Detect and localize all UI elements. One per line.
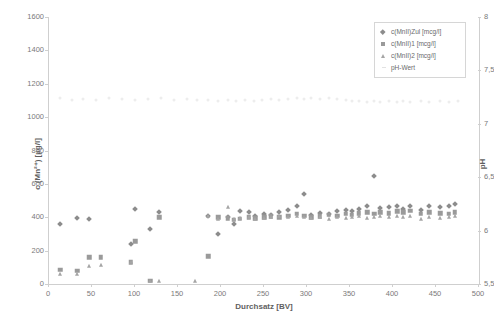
x-axis-tick-label: 50 [87, 290, 95, 298]
y-axis-tick-label: 1600 [8, 13, 44, 21]
y-axis-tick-label: 0 [8, 280, 44, 288]
x-axis-tick-mark [91, 284, 92, 287]
data-point-marker [252, 100, 255, 103]
y-axis-tick-label: 600 [8, 180, 44, 188]
x-axis-tick-label: 150 [171, 290, 184, 298]
legend-item: c(MnII)1 [mcg/l] [379, 38, 462, 50]
x-axis-tick-mark [263, 284, 264, 287]
x-axis-tick-mark [478, 284, 479, 287]
data-point-marker [172, 99, 175, 102]
legend-item-label: c(MnII)1 [mcg/l] [391, 41, 436, 48]
data-point-marker [159, 97, 162, 100]
legend-item-label: c(MnII)Zul [mcg/l] [391, 29, 441, 36]
legend-marker-diamond-icon [379, 28, 388, 37]
data-point-marker [261, 99, 264, 102]
x-axis-tick-mark [435, 284, 436, 287]
data-point-marker [108, 97, 111, 100]
x-axis-tick-mark [134, 284, 135, 287]
y-axis-tick-mark [45, 117, 48, 118]
x-axis-tick-mark [349, 284, 350, 287]
y2-axis-tick-label: 8 [484, 13, 488, 21]
y2-axis-title: pH [478, 158, 487, 169]
data-point-marker [59, 97, 62, 100]
data-point-marker [185, 98, 188, 101]
x-axis-tick-label: 0 [46, 290, 50, 298]
data-point-marker [295, 97, 298, 100]
y-axis-tick-label: 1400 [8, 47, 44, 55]
data-point-marker [287, 98, 290, 101]
legend-item-label: pH-Wert [391, 65, 415, 72]
y-axis-tick-mark [45, 184, 48, 185]
data-point-marker [121, 98, 124, 101]
data-point-marker [336, 98, 339, 101]
x-axis-tick-mark [48, 284, 49, 287]
data-point-marker [419, 100, 422, 103]
data-point-marker [95, 99, 98, 102]
data-point-marker [71, 99, 74, 102]
legend-marker-square-icon [379, 40, 388, 49]
data-point-marker [226, 99, 229, 102]
data-point-marker [195, 99, 198, 102]
y2-axis-tick-label: 7 [484, 120, 488, 128]
x-axis-tick-mark [392, 284, 393, 287]
data-point-marker [146, 98, 149, 101]
data-point-marker [350, 100, 353, 103]
legend-item: c(MnII)Zul [mcg/l] [379, 26, 462, 38]
y-axis-tick-label: 200 [8, 247, 44, 255]
x-axis-title: Durchsatz [BV] [48, 302, 480, 311]
y2-axis-tick-mark [478, 231, 481, 232]
data-point-marker [303, 98, 306, 101]
y-axis-tick-label: 1200 [8, 80, 44, 88]
x-axis-tick-label: 100 [128, 290, 141, 298]
legend-marker-line-icon [379, 64, 388, 73]
data-point-marker [379, 101, 382, 104]
data-point-marker [217, 100, 220, 103]
data-point-marker [278, 99, 281, 102]
data-point-marker [428, 101, 431, 104]
x-axis-tick-mark [306, 284, 307, 287]
y2-axis-tick-mark [478, 124, 481, 125]
data-point-marker [456, 100, 459, 103]
data-point-marker [447, 101, 450, 104]
y2-axis-tick-mark [478, 17, 481, 18]
chart-legend: c(MnII)Zul [mcg/l] c(MnII)1 [mcg/l] c(Mn… [374, 22, 466, 78]
x-axis-tick-label: 350 [343, 290, 356, 298]
data-point-marker [402, 100, 405, 103]
y2-axis-tick-label: 6 [484, 227, 488, 235]
data-point-marker [387, 100, 390, 103]
y2-axis-tick-mark [478, 177, 481, 178]
y-axis-tick-label: 800 [8, 147, 44, 155]
y-axis-tick-label: 400 [8, 214, 44, 222]
data-point-marker [373, 100, 376, 103]
data-point-marker [269, 98, 272, 101]
x-axis-tick-label: 200 [214, 290, 227, 298]
y2-axis-tick-label: 5,5 [484, 280, 494, 288]
data-point-marker [310, 97, 313, 100]
data-point-marker [318, 98, 321, 101]
x-axis-tick-label: 250 [257, 290, 270, 298]
data-point-marker [439, 100, 442, 103]
y2-axis-tick-mark [478, 70, 481, 71]
data-point-marker [235, 100, 238, 103]
y-axis-tick-mark [45, 50, 48, 51]
data-point-marker [134, 99, 137, 102]
legend-item-label: c(MnII)2 [mcg/l] [391, 53, 436, 60]
y2-axis-tick-label: 7,5 [484, 67, 494, 75]
data-point-marker [82, 98, 85, 101]
y-axis-tick-mark [45, 251, 48, 252]
data-point-marker [244, 99, 247, 102]
y-axis-tick-mark [45, 151, 48, 152]
data-point-marker [396, 101, 399, 104]
x-axis-tick-mark [220, 284, 221, 287]
data-point-marker [357, 100, 360, 103]
y2-axis-tick-label: 6,5 [484, 173, 494, 181]
x-axis-tick-mark [177, 284, 178, 287]
legend-item: c(MnII)2 [mcg/l] [379, 50, 462, 62]
y-axis-tick-mark [45, 217, 48, 218]
data-point-marker [327, 97, 330, 100]
x-axis-tick-label: 400 [386, 290, 399, 298]
x-axis-tick-label: 500 [472, 290, 485, 298]
y-axis-tick-mark [45, 17, 48, 18]
x-axis-tick-label: 450 [429, 290, 442, 298]
legend-marker-triangle-icon [379, 52, 388, 61]
